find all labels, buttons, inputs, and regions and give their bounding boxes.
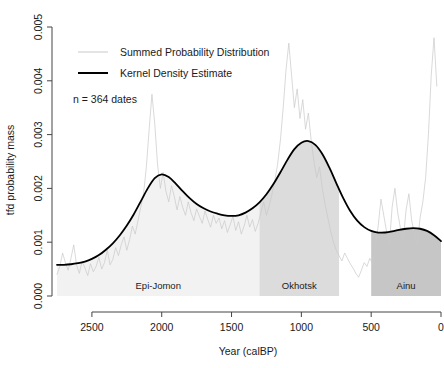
kernel-density-chart: Epi-JomonOkhotskAinu 0.0000.0010.0020.00…: [0, 0, 444, 368]
x-tick-label: 1000: [290, 321, 314, 333]
x-tick-label: 1500: [220, 321, 244, 333]
x-axis-title: Year (calBP): [219, 345, 278, 357]
y-tick-label: 0.004: [32, 68, 44, 94]
y-tick-label: 0.001: [32, 229, 44, 255]
y-tick-label: 0.000: [32, 283, 44, 309]
y-tick-label: 0.003: [32, 121, 44, 147]
x-tick-label: 0: [438, 321, 444, 333]
y-axis-title: tfd probability mass: [4, 125, 16, 215]
legend-label-kde: Kernel Density Estimate: [120, 67, 232, 79]
sample-size-note: n = 364 dates: [73, 93, 137, 105]
x-tick-label: 500: [362, 321, 380, 333]
phase-label-ainu: Ainu: [397, 280, 416, 291]
legend-label-spd: Summed Probability Distribution: [120, 46, 270, 58]
chart-root: Epi-JomonOkhotskAinu 0.0000.0010.0020.00…: [0, 0, 444, 368]
x-tick-label: 2500: [80, 321, 104, 333]
phase-label-epi-jomon: Epi-Jomon: [136, 280, 181, 291]
y-tick-label: 0.005: [32, 14, 44, 40]
x-tick-label: 2000: [150, 321, 174, 333]
y-tick-label: 0.002: [32, 175, 44, 201]
phase-label-okhotsk: Okhotsk: [282, 280, 317, 291]
